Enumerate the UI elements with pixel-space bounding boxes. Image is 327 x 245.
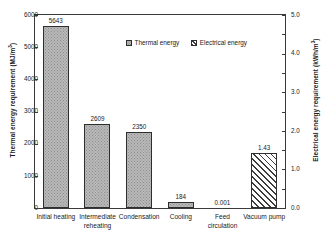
chart-figure: Thermal energy requirement (MJ/m3) Elect… (0, 0, 327, 245)
bar[interactable] (84, 124, 110, 208)
bar[interactable] (43, 26, 69, 208)
bar-value-label: 184 (176, 194, 187, 200)
legend-swatch-electrical-icon (191, 40, 197, 46)
chart-legend: Thermal energy Electrical energy (126, 39, 247, 46)
bar[interactable] (126, 132, 152, 208)
bar-value-label: 1.43 (258, 145, 270, 151)
y-axis-left-title: Thermal energy requirement (MJ/m3) (8, 25, 16, 175)
y-axis-right-tick-label: 3.0 (291, 89, 300, 95)
y-axis-right-title-tail: ) (312, 38, 319, 40)
legend-swatch-thermal-icon (126, 40, 132, 46)
legend-item-electrical-energy: Electrical energy (191, 39, 247, 46)
legend-label-thermal: Thermal energy (135, 39, 180, 46)
y-axis-right-title-text: Electrical energy requirement (kWh/m (312, 43, 319, 161)
bar-slot: 5643 (35, 15, 77, 208)
bar-value-label: 2609 (90, 116, 104, 122)
y-axis-right-tick-mark (282, 208, 286, 209)
bar-value-label: 5643 (49, 18, 63, 24)
bar-value-label: 0.001 (215, 200, 231, 206)
bar-slot: 2609 (77, 15, 119, 208)
y-axis-right-tick-label: 5.0 (291, 12, 300, 18)
y-axis-left-tick-mark (34, 208, 38, 209)
y-axis-right-tick-label: 2.0 (291, 128, 300, 134)
bar-value-label: 2350 (132, 124, 146, 130)
y-axis-right-title-superscript: 3 (311, 41, 316, 44)
bar[interactable] (168, 202, 194, 208)
legend-label-electrical: Electrical energy (200, 39, 247, 46)
y-axis-right-tick-label: 1.0 (291, 166, 300, 172)
bar-slot: 1.43 (243, 15, 285, 208)
legend-item-thermal-energy: Thermal energy (126, 39, 179, 46)
y-axis-right-tick-label: 4.0 (291, 50, 300, 56)
y-axis-right-title: Electrical energy requirement (kWh/m3) (311, 25, 319, 175)
y-axis-left-title-superscript: 3 (8, 45, 13, 48)
bar[interactable] (251, 153, 277, 208)
y-axis-left-title-tail: ) (9, 43, 16, 45)
y-axis-left-title-text: Thermal energy requirement (MJ/m (9, 48, 16, 158)
y-axis-right-tick-label: 0.0 (291, 205, 300, 211)
x-axis-category-label: Vacuum pump (235, 212, 293, 221)
